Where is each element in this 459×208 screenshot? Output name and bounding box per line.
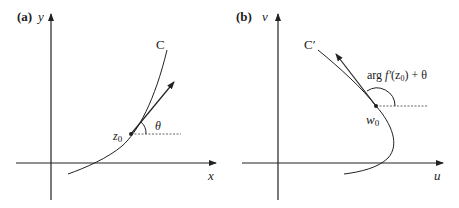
panel-a-tag: (a) xyxy=(17,9,32,24)
y-axis-label: y xyxy=(36,9,44,24)
angle-arc xyxy=(141,122,146,134)
point-z0 xyxy=(129,132,133,136)
curve-label-c-prime: C′ xyxy=(304,37,316,52)
point-w0 xyxy=(374,104,378,108)
v-axis-label: v xyxy=(262,9,268,24)
panel-a: (a) y x C θ z0 xyxy=(16,9,216,200)
x-axis-label: x xyxy=(207,168,214,183)
curve-c xyxy=(68,50,167,174)
angle-label-arg: arg f′(z0) + θ xyxy=(367,68,427,83)
angle-arc xyxy=(367,88,395,106)
point-label-z0: z0 xyxy=(112,129,123,144)
u-axis-label: u xyxy=(434,168,441,183)
panel-b-tag: (b) xyxy=(236,9,252,24)
angle-label-theta: θ xyxy=(155,119,161,133)
panel-b: (b) v u C′ w0 arg f′(z0) + θ xyxy=(236,9,443,200)
curve-label-c: C xyxy=(156,37,165,52)
conformal-mapping-diagram: (a) y x C θ z0 (b) v u C′ w0 arg f′(z0) … xyxy=(0,0,459,208)
point-label-w0: w0 xyxy=(366,112,380,128)
tangent-arrow xyxy=(131,82,174,134)
